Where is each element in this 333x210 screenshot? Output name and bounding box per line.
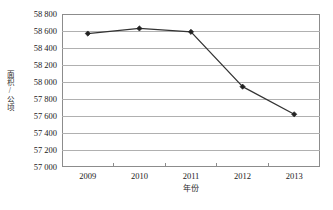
data-point-marker xyxy=(137,26,142,31)
y-axis-tick-label: 58 400 xyxy=(34,44,57,53)
line-chart: 面积/公顷 57 00057 20057 40057 60057 80058 0… xyxy=(0,0,333,210)
gridlines xyxy=(62,31,320,150)
y-axis-tick-label: 57 800 xyxy=(34,95,57,104)
y-axis-title: 面积/公顷 xyxy=(2,40,16,140)
x-axis-tick-label: 2013 xyxy=(286,171,303,181)
series-group xyxy=(85,26,297,117)
series-line xyxy=(88,28,294,114)
x-axis-tick-label: 2010 xyxy=(131,171,148,181)
x-axis-tick-labels: 20092010201120122013 xyxy=(62,171,320,185)
y-axis-tick-label: 58 200 xyxy=(34,61,57,70)
plot-canvas xyxy=(62,14,320,167)
y-axis-tick-label: 58 600 xyxy=(34,27,57,36)
y-axis-tick-label: 58 800 xyxy=(34,10,57,19)
y-axis-tick-label: 57 600 xyxy=(34,112,57,121)
x-axis-title: 年份 xyxy=(62,184,320,194)
x-axis-tick-label: 2011 xyxy=(183,171,200,181)
y-axis-tick-labels: 57 00057 20057 40057 60057 80058 00058 2… xyxy=(16,0,60,210)
x-axis-tick-label: 2009 xyxy=(79,171,96,181)
x-axis-ticks xyxy=(114,163,269,167)
y-axis-tick-label: 57 400 xyxy=(34,129,57,138)
y-axis-tick-label: 58 000 xyxy=(34,78,57,87)
y-axis-tick-label: 57 000 xyxy=(34,163,57,172)
x-axis-tick-label: 2012 xyxy=(234,171,251,181)
y-axis-tick-label: 57 200 xyxy=(34,146,57,155)
data-point-marker xyxy=(85,31,90,36)
